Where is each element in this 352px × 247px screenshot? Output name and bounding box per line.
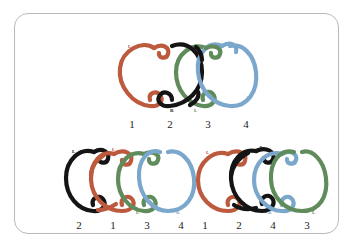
screenshot-root: L R L R 1 2 3 4 (0, 0, 352, 247)
endpoint-marker: L (206, 150, 210, 155)
bottom-left-knot-svg: L L L R (60, 142, 200, 218)
strand-red-hook (154, 46, 168, 58)
strand-red-over (91, 155, 104, 176)
position-label: 4 (239, 118, 253, 130)
bottom-right-knot-svg: L L R L (190, 142, 330, 218)
endpoint-marker: R (170, 108, 174, 113)
bottom-left-knot-diagram: L L L R (60, 142, 200, 218)
position-label: 4 (174, 219, 188, 231)
position-label: 4 (266, 219, 280, 231)
bottom-right-knot-diagram: L L R L (190, 142, 330, 218)
strand-green (271, 151, 326, 211)
position-label: 3 (300, 219, 314, 231)
endpoint-marker: L (194, 108, 198, 113)
endpoint-marker: R (176, 210, 180, 215)
endpoint-marker: R (247, 95, 251, 100)
position-label: 3 (201, 118, 215, 130)
bottom-right-position-labels: 1 2 4 3 (198, 219, 314, 231)
position-label: 2 (72, 219, 86, 231)
strand-red (120, 45, 162, 106)
position-label: 3 (140, 219, 154, 231)
position-label: 1 (198, 219, 212, 231)
top-position-labels: 1 2 3 4 (125, 118, 253, 130)
endpoint-marker: R (268, 210, 272, 215)
position-label: 1 (106, 219, 120, 231)
diagram-card: L R L R 1 2 3 4 (14, 13, 339, 234)
top-knot-svg: L R L R (110, 36, 265, 116)
position-label: 1 (125, 118, 139, 130)
strand-green-hook (206, 46, 220, 57)
endpoint-marker: L (312, 210, 316, 215)
bottom-left-position-labels: 2 1 3 4 (72, 219, 188, 231)
top-knot-diagram: L R L R (110, 36, 265, 116)
position-label: 2 (163, 118, 177, 130)
position-label: 2 (232, 219, 246, 231)
